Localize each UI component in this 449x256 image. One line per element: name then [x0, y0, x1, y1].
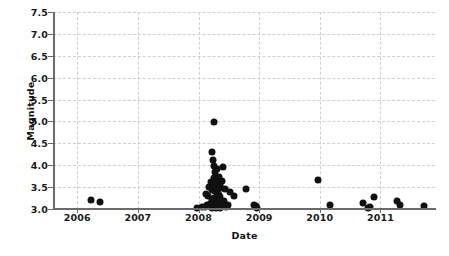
y-tick-mark: [48, 12, 53, 13]
y-tick-mark: [48, 100, 53, 101]
y-tick-mark: [48, 187, 53, 188]
y-axis-title-wrapper: Magnitude: [24, 12, 25, 209]
data-point: [230, 193, 237, 200]
gridline-vertical: [380, 12, 381, 209]
y-tick-label: 3.0: [31, 204, 48, 215]
gridline-horizontal: [53, 56, 435, 57]
gridline-horizontal: [53, 78, 435, 79]
gridline-horizontal: [53, 165, 435, 166]
y-tick-mark: [48, 34, 53, 35]
gridline-vertical: [138, 12, 139, 209]
plot-area: [53, 12, 435, 209]
y-axis-line: [53, 12, 55, 210]
x-tick-label: 2009: [246, 212, 273, 223]
y-tick-label: 4.0: [31, 160, 48, 171]
x-axis-tick-labels: 200620072008200920102011: [53, 212, 436, 228]
data-point: [96, 198, 103, 205]
data-point: [314, 176, 321, 183]
y-axis-title: Magnitude: [25, 81, 36, 140]
gridline-horizontal: [53, 143, 435, 144]
gridline-vertical: [199, 12, 200, 209]
y-tick-mark: [48, 143, 53, 144]
y-tick-mark: [48, 78, 53, 79]
data-point: [87, 196, 94, 203]
x-tick-label: 2008: [185, 212, 212, 223]
y-tick-mark: [48, 165, 53, 166]
y-tick-mark: [48, 121, 53, 122]
gridline-vertical: [77, 12, 78, 209]
data-point: [220, 163, 227, 170]
y-tick-mark: [48, 56, 53, 57]
gridline-horizontal: [53, 34, 435, 35]
x-tick-label: 2006: [64, 212, 91, 223]
data-point: [219, 177, 226, 184]
y-tick-label: 7.5: [31, 7, 48, 18]
x-tick-label: 2007: [124, 212, 151, 223]
y-tick-label: 3.5: [31, 182, 48, 193]
x-tick-label: 2010: [306, 212, 333, 223]
gridline-horizontal: [53, 121, 435, 122]
gridline-horizontal: [53, 100, 435, 101]
data-point: [211, 118, 218, 125]
data-point: [242, 186, 249, 193]
gridline-vertical: [259, 12, 260, 209]
data-point: [371, 194, 378, 201]
gridline-horizontal: [53, 12, 435, 13]
y-tick-label: 6.5: [31, 50, 48, 61]
x-tick-label: 2011: [367, 212, 394, 223]
scatter-chart-figure: 3.03.54.04.55.05.56.06.57.07.5 200620072…: [0, 0, 449, 256]
x-axis-line: [53, 208, 436, 210]
y-tick-label: 7.0: [31, 28, 48, 39]
data-point: [209, 149, 216, 156]
x-axis-title: Date: [53, 230, 436, 241]
